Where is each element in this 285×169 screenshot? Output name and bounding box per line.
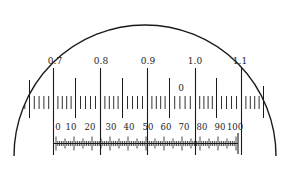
- upper-minor-ticks: [25, 96, 259, 109]
- lower-label-60: 60: [161, 122, 172, 132]
- upper-label-0.7: 0.7: [48, 56, 63, 66]
- zero-marker-label: 0: [178, 83, 184, 93]
- upper-label-0.8: 0.8: [94, 56, 109, 66]
- lower-label-70: 70: [179, 122, 190, 132]
- reticle-svg: 0.7 0.8 0.9 1.0 1.1 0 0 10 20 30 40 50 6…: [0, 0, 285, 169]
- lower-label-80: 80: [197, 122, 208, 132]
- lower-label-30: 30: [106, 122, 117, 132]
- lower-ruler: [54, 133, 238, 154]
- lower-label-50: 50: [143, 122, 154, 132]
- lower-labels: 0 10 20 30 40 50 60 70 80 90 100: [55, 122, 243, 132]
- upper-label-0.9: 0.9: [141, 56, 156, 66]
- lower-label-0: 0: [55, 122, 60, 132]
- upper-half-lines: [30, 78, 264, 118]
- reticle-diagram: 0.7 0.8 0.9 1.0 1.1 0 0 10 20 30 40 50 6…: [0, 0, 285, 169]
- upper-label-1.1: 1.1: [233, 56, 247, 66]
- lower-label-10: 10: [66, 122, 77, 132]
- upper-label-1.0: 1.0: [188, 56, 203, 66]
- lower-label-40: 40: [124, 122, 135, 132]
- lower-label-90: 90: [215, 122, 226, 132]
- lower-label-100: 100: [227, 122, 243, 132]
- lower-label-20: 20: [85, 122, 96, 132]
